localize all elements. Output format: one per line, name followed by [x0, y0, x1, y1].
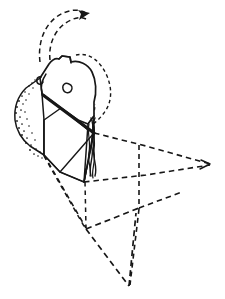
plane-drop-left: [85, 182, 86, 228]
line-drawing: Lithic artifact technical illustration w…: [0, 0, 225, 299]
motion-arc-inner: [50, 18, 86, 60]
artifact-left-flank: [15, 78, 44, 155]
projection-edge-right-lower: [139, 192, 182, 208]
plane-edge-top: [94, 133, 210, 164]
plane-right-vertex: [200, 160, 210, 169]
projection-edge-lower-cross: [86, 208, 139, 229]
projection-edge-bottom-left: [86, 229, 129, 286]
figure-canvas: Lithic artifact technical illustration w…: [0, 0, 225, 299]
dashed-projection-plane: [84, 133, 210, 285]
figure-title: Lithic artifact technical illustration w…: [2, 0, 225, 13]
plane-edge-bottom: [84, 165, 210, 182]
curved-motion-arrow: [40, 10, 90, 62]
